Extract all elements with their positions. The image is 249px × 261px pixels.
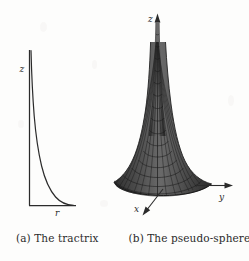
pseudosphere-z-axis-label: z bbox=[147, 14, 153, 24]
figure-panel: z r z bbox=[0, 0, 249, 261]
caption-row: (a) The tractrix (b) The pseudo-sphere bbox=[0, 231, 249, 253]
pseudosphere-plot: z bbox=[114, 14, 233, 216]
z-axis-arrowhead bbox=[155, 14, 161, 23]
pseudosphere-y-axis-label: y bbox=[218, 192, 225, 202]
pseudosphere-surface bbox=[114, 22, 212, 196]
y-axis-arrowhead bbox=[225, 183, 234, 189]
figure-graphics: z r z bbox=[0, 0, 249, 261]
caption-pseudosphere: (b) The pseudo-sphere bbox=[129, 231, 249, 245]
tractrix-z-axis-label: z bbox=[19, 64, 25, 74]
caption-tractrix: (a) The tractrix bbox=[16, 231, 99, 245]
tractrix-plot: z r bbox=[19, 50, 77, 218]
tractrix-curve bbox=[31, 51, 74, 206]
pseudosphere-x-axis-label: x bbox=[134, 204, 139, 214]
tractrix-r-axis-label: r bbox=[55, 208, 60, 218]
